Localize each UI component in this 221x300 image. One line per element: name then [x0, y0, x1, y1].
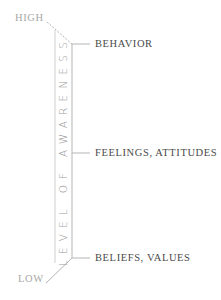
low-label: LOW — [18, 273, 44, 284]
level-feelings-attitudes: FEELINGS, ATTITUDES — [95, 147, 217, 158]
level-beliefs-values: BELIEFS, VALUES — [95, 252, 191, 263]
axis-label: LEVEL OF AWARENESS — [57, 36, 69, 266]
high-label: HIGH — [15, 12, 44, 23]
level-behavior: BEHAVIOR — [95, 38, 153, 49]
